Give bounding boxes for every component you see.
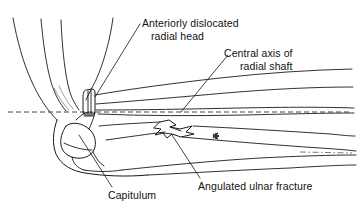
label-radial-head-line1: Anteriorly dislocated — [142, 17, 239, 29]
ulnar-fracture-zigzag — [154, 120, 194, 138]
leader-lines — [79, 24, 228, 187]
figure-canvas: Anteriorly dislocated radial head Centra… — [0, 0, 357, 215]
label-angulated-ulnar-fracture: Angulated ulnar fracture — [198, 180, 312, 193]
leader-radial-head — [95, 24, 140, 97]
radius-shaft — [95, 69, 354, 116]
leader-ulnar-fracture — [172, 135, 200, 178]
label-central-axis-of-radial-shaft: Central axis of radial shaft — [224, 47, 293, 72]
label-central-axis-line1: Central axis of — [224, 47, 293, 59]
lower-right-dashdot-line — [300, 152, 352, 153]
label-anteriorly-dislocated-radial-head: Anteriorly dislocated radial head — [142, 17, 239, 42]
asterisk-marker — [213, 133, 219, 140]
ulna-shaft — [99, 122, 356, 175]
humerus-shaft-lines — [13, 18, 113, 120]
label-capitulum: Capitulum — [108, 189, 156, 202]
label-central-axis-line2: radial shaft — [224, 60, 293, 73]
leader-central-axis — [181, 55, 228, 112]
distal-humerus-capitulum — [53, 112, 148, 176]
label-radial-head-line2: radial head — [142, 30, 239, 43]
